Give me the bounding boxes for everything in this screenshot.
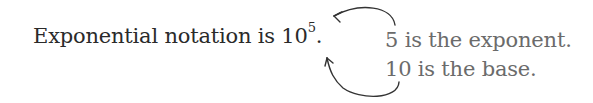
- exponent-arrow-icon: [334, 8, 395, 25]
- annotation-arrows: [0, 0, 593, 103]
- base-arrow-icon: [325, 58, 399, 96]
